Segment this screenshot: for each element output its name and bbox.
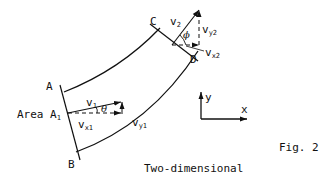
- x-axis-label: x: [241, 103, 248, 116]
- point-d-label: D: [190, 53, 197, 66]
- upper-wall-curve: [64, 28, 160, 92]
- phi-label: ϕ: [183, 29, 190, 40]
- point-a-label: A: [46, 80, 53, 93]
- section-ab-line: [60, 85, 80, 160]
- v1-label: v1: [86, 96, 97, 110]
- vx2-label: vx2: [205, 46, 220, 60]
- theta-label: θ: [101, 103, 107, 114]
- area-label: Area A1: [17, 108, 61, 122]
- figure-caption: Fig. 2: [279, 141, 319, 154]
- vy2-label: vy2: [202, 23, 217, 37]
- figure-subtitle: Two-dimensional: [144, 162, 243, 175]
- y-axis-label: y: [205, 91, 212, 104]
- v2-label: v2: [170, 15, 181, 29]
- vy1-label: vy1: [132, 116, 147, 130]
- vx2-leader-line: [186, 46, 204, 51]
- vx1-label: vx1: [78, 118, 93, 132]
- flow-diagram: A B C D Area A1 v1 θ vx1 vy1 v2 ϕ vy2 vx…: [0, 0, 324, 182]
- point-b-label: B: [68, 158, 75, 171]
- point-c-label: C: [150, 15, 157, 28]
